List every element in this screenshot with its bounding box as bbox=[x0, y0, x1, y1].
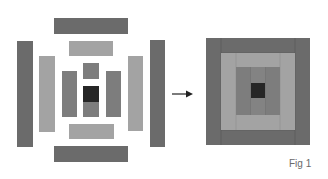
inner-right-strip bbox=[106, 71, 121, 117]
figure-caption: Fig 1 bbox=[289, 158, 311, 169]
inner-bottom-square bbox=[83, 102, 99, 117]
outer-left-strip bbox=[17, 41, 33, 147]
right-arrow-icon bbox=[172, 89, 194, 99]
assembled-block bbox=[206, 38, 310, 145]
middle-bottom-strip bbox=[69, 124, 114, 139]
outer-top-strip bbox=[54, 18, 128, 34]
inner-top-square bbox=[83, 63, 99, 79]
middle-left-strip bbox=[39, 56, 55, 132]
inner-left-strip bbox=[62, 71, 77, 117]
middle-top-strip bbox=[69, 41, 113, 56]
middle-right-strip bbox=[128, 56, 143, 131]
outer-right-strip bbox=[150, 40, 165, 147]
center-square bbox=[83, 86, 99, 102]
outer-bottom-strip bbox=[54, 146, 128, 162]
